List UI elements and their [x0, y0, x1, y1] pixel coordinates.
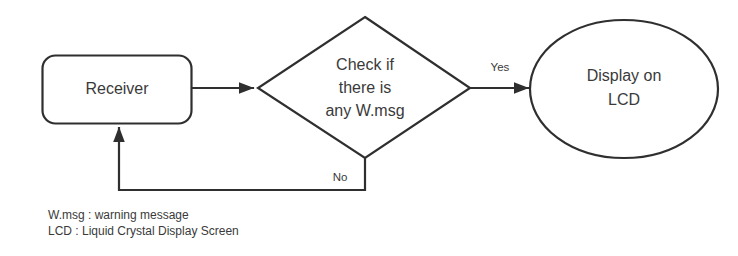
decision-label-line3: any W.msg — [325, 102, 404, 119]
legend-line-wmsg: W.msg : warning message — [48, 208, 189, 222]
decision-label-line2: there is — [339, 79, 391, 96]
node-display-on-lcd[interactable]: Display on LCD — [530, 20, 718, 158]
legend: W.msg : warning message LCD : Liquid Cry… — [48, 208, 239, 238]
edge-label-no: No — [333, 171, 348, 183]
flowchart-canvas: Receiver Check if there is any W.msg Dis… — [0, 0, 738, 256]
display-ellipse — [530, 20, 718, 158]
decision-label-line1: Check if — [336, 56, 394, 73]
edge-decision-to-receiver: No — [119, 128, 365, 190]
edge-decision-to-display: Yes — [470, 61, 528, 88]
receiver-label: Receiver — [85, 80, 149, 97]
node-decision[interactable]: Check if there is any W.msg — [258, 17, 470, 158]
legend-line-lcd: LCD : Liquid Crystal Display Screen — [48, 224, 239, 238]
edge-decision-to-receiver-path — [119, 128, 365, 190]
display-label-line2: LCD — [608, 91, 640, 108]
display-label-line1: Display on — [587, 67, 662, 84]
node-receiver[interactable]: Receiver — [43, 56, 192, 124]
edge-label-yes: Yes — [491, 61, 510, 73]
